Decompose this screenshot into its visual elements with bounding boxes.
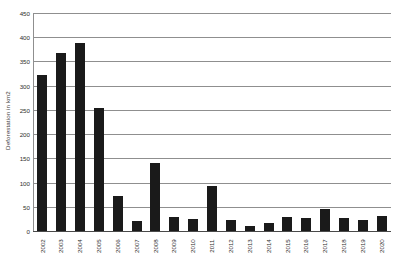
y-axis-tick-label: 200 [12, 132, 30, 138]
x-axis-tick-label-2008: 2008 [152, 239, 158, 253]
x-axis-tick-label-2013: 2013 [247, 239, 253, 253]
bar-2006[interactable] [113, 196, 123, 232]
bar-slot [335, 14, 354, 232]
x-slot: 2017 [316, 234, 335, 268]
x-slot: 2005 [90, 234, 109, 268]
x-axis-tick-label-2005: 2005 [96, 239, 102, 253]
x-axis-tick-label-2012: 2012 [228, 239, 234, 253]
y-axis-tick-label: 350 [12, 59, 30, 65]
bar-slot [316, 14, 335, 232]
x-slot: 2006 [108, 234, 127, 268]
x-axis-tick-labels: 2002200320042005200620072008200920102011… [33, 234, 391, 268]
bar-slot [221, 14, 240, 232]
bar-slot [33, 14, 52, 232]
bar-slot [203, 14, 222, 232]
y-axis-tick-label: 250 [12, 108, 30, 114]
x-axis-tick-label-2015: 2015 [284, 239, 290, 253]
x-slot: 2003 [52, 234, 71, 268]
x-axis-tick-label-2004: 2004 [77, 239, 83, 253]
bar-slot [259, 14, 278, 232]
x-axis-tick-label-2009: 2009 [171, 239, 177, 253]
y-axis-tick-labels: 050100150200250300350400450 [12, 0, 30, 240]
x-slot: 2016 [297, 234, 316, 268]
plot-area [33, 14, 391, 232]
bar-2004[interactable] [75, 43, 85, 232]
x-slot: 2014 [259, 234, 278, 268]
bar-2008[interactable] [150, 163, 160, 232]
bar-slot [90, 14, 109, 232]
bar-2017[interactable] [320, 209, 330, 232]
bar-slot [297, 14, 316, 232]
y-axis-title-text: Deforestation in km2 [4, 91, 11, 150]
y-axis-tick-label: 150 [12, 156, 30, 162]
bar-2018[interactable] [339, 218, 349, 232]
x-slot: 2002 [33, 234, 52, 268]
x-axis-baseline [33, 231, 391, 232]
x-slot: 2020 [372, 234, 391, 268]
y-axis-tick-label: 0 [12, 229, 30, 235]
y-axis-tick-label: 100 [12, 180, 30, 186]
bar-2003[interactable] [56, 53, 66, 232]
x-axis-tick-label-2010: 2010 [190, 239, 196, 253]
x-axis-tick-label-2006: 2006 [115, 239, 121, 253]
x-slot: 2008 [146, 234, 165, 268]
bars-layer [33, 14, 391, 232]
bar-2002[interactable] [37, 75, 47, 232]
bar-slot [71, 14, 90, 232]
bar-slot [353, 14, 372, 232]
bar-slot [184, 14, 203, 232]
x-axis-tick-label-2017: 2017 [322, 239, 328, 253]
bar-slot [146, 14, 165, 232]
x-slot: 2019 [353, 234, 372, 268]
x-axis-tick-label-2020: 2020 [379, 239, 385, 253]
x-slot: 2018 [335, 234, 354, 268]
bar-slot [127, 14, 146, 232]
bar-2011[interactable] [207, 186, 217, 232]
x-axis-tick-label-2014: 2014 [265, 239, 271, 253]
x-slot: 2011 [203, 234, 222, 268]
deforestation-bar-chart: Deforestation in km2 0501001502002503003… [0, 0, 397, 270]
x-axis-tick-label-2003: 2003 [58, 239, 64, 253]
bar-slot [240, 14, 259, 232]
x-axis-tick-label-2019: 2019 [360, 239, 366, 253]
y-axis-tick-label: 450 [12, 11, 30, 17]
x-slot: 2007 [127, 234, 146, 268]
bar-2009[interactable] [169, 217, 179, 233]
bar-2005[interactable] [94, 108, 104, 232]
x-slot: 2009 [165, 234, 184, 268]
x-axis-tick-label-2002: 2002 [39, 239, 45, 253]
bar-slot [372, 14, 391, 232]
x-slot: 2015 [278, 234, 297, 268]
y-axis-tick-label: 400 [12, 35, 30, 41]
bar-2016[interactable] [301, 218, 311, 232]
bar-slot [165, 14, 184, 232]
x-slot: 2004 [71, 234, 90, 268]
y-axis-tick-label: 300 [12, 84, 30, 90]
bar-slot [108, 14, 127, 232]
x-axis-tick-label-2007: 2007 [134, 239, 140, 253]
x-axis-tick-label-2016: 2016 [303, 239, 309, 253]
x-axis-tick-label-2018: 2018 [341, 239, 347, 253]
x-slot: 2013 [240, 234, 259, 268]
y-axis-tick-label: 50 [12, 205, 30, 211]
x-slot: 2012 [221, 234, 240, 268]
x-slot: 2010 [184, 234, 203, 268]
x-axis-tick-label-2011: 2011 [209, 239, 215, 252]
bar-slot [278, 14, 297, 232]
bar-slot [52, 14, 71, 232]
bar-2015[interactable] [282, 217, 292, 233]
bar-2020[interactable] [377, 216, 387, 232]
